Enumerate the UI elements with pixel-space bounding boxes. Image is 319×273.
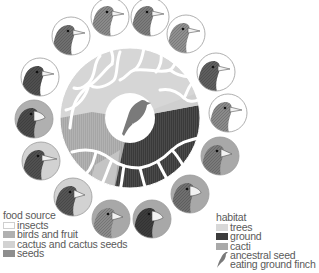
cactus-seeds-swatch <box>3 241 15 248</box>
finch-portrait <box>52 17 90 56</box>
finch-portrait <box>171 175 209 214</box>
finch-portrait <box>197 53 235 92</box>
birds-and-fruit-swatch <box>3 231 15 238</box>
finch-portrait <box>201 137 239 176</box>
legend-label: seeds <box>17 249 44 259</box>
trees-swatch <box>216 224 228 231</box>
finch-portrait <box>22 142 60 181</box>
finch-portrait <box>131 0 169 37</box>
ancestral-finch-legend-icon <box>216 251 228 269</box>
finch-portrait <box>209 94 247 133</box>
habitat-legend: habitat trees ground cacti ancestral see… <box>216 213 316 269</box>
legend-item-ancestral-finch: ancestral seed eating ground finch <box>216 251 316 269</box>
finch-portrait <box>91 0 129 37</box>
cacti-swatch <box>216 243 228 250</box>
finch-portrait <box>21 58 59 97</box>
seeds-swatch <box>3 250 15 257</box>
ground-swatch <box>216 233 228 240</box>
finch-portrait <box>167 15 205 54</box>
finch-portrait <box>133 200 171 239</box>
ancestral-finch-label-line2: eating ground finch <box>230 260 316 269</box>
finch-portrait <box>15 100 53 139</box>
legend-item-seeds: seeds <box>3 249 127 259</box>
food-source-legend: food source insects birds and fruit cact… <box>3 211 127 259</box>
insects-swatch <box>3 222 15 229</box>
